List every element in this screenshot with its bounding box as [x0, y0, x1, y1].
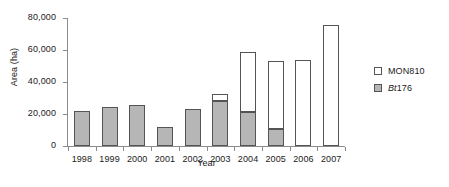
x-tick [207, 147, 208, 151]
x-tick [262, 147, 263, 151]
x-tick [290, 147, 291, 151]
x-tick [68, 147, 69, 151]
bar-segment-bt176 [212, 101, 228, 146]
x-tick [234, 147, 235, 151]
x-tick [123, 147, 124, 151]
y-tick: 0 [63, 146, 67, 147]
bar-group [74, 18, 90, 146]
bar-group [212, 18, 228, 146]
y-tick-label: 60,000 [28, 44, 56, 54]
y-tick: 20,000 [63, 114, 67, 115]
y-tick: 60,000 [63, 50, 67, 51]
y-axis-label: Area (ha) [9, 22, 19, 112]
bar-segment-bt176 [129, 105, 145, 146]
bar-segment-mon810 [212, 94, 228, 101]
bar-segment-bt176 [185, 109, 201, 146]
x-tick [96, 147, 97, 151]
legend-label-mon810: MON810 [388, 66, 425, 76]
bar-segment-bt176 [102, 107, 118, 146]
y-tick: 80,000 [63, 18, 67, 19]
bar-segment-bt176 [74, 111, 90, 146]
legend-swatch-mon810 [374, 67, 382, 75]
bar-group [102, 18, 118, 146]
bar-group [157, 18, 173, 146]
legend-item-mon810: MON810 [374, 62, 425, 79]
y-axis-line [67, 18, 68, 147]
bar-segment-bt176 [268, 129, 284, 146]
bar-segment-bt176 [157, 127, 173, 146]
x-tick [317, 147, 318, 151]
bar-segment-mon810 [240, 52, 256, 112]
legend-label-bt176-plain: 176 [397, 83, 412, 93]
x-axis-label: Year [68, 158, 345, 168]
legend-item-bt176: Bt176 [374, 79, 425, 96]
chart-container: Area (ha) 020,00040,00060,00080,000 1998… [0, 0, 449, 187]
bar-group [295, 18, 311, 146]
bar-group [240, 18, 256, 146]
plot-area: 020,00040,00060,00080,000 19981999200020… [68, 18, 345, 146]
chart-legend: MON810 Bt176 [374, 62, 425, 96]
bar-segment-mon810 [323, 25, 339, 146]
y-tick: 40,000 [63, 82, 67, 83]
bar-segment-mon810 [268, 61, 284, 129]
x-axis-line [67, 146, 345, 147]
x-tick [179, 147, 180, 151]
legend-label-bt176: Bt176 [388, 83, 412, 93]
x-tick [151, 147, 152, 151]
bar-group [323, 18, 339, 146]
x-tick [345, 147, 346, 151]
legend-swatch-bt176 [374, 84, 382, 92]
legend-label-bt176-italic: Bt [388, 83, 397, 93]
bar-group [268, 18, 284, 146]
y-tick-label: 80,000 [28, 12, 56, 22]
bar-segment-mon810 [295, 60, 311, 146]
bar-group [185, 18, 201, 146]
bar-group [129, 18, 145, 146]
y-tick-label: 0 [51, 140, 56, 150]
y-tick-label: 20,000 [28, 108, 56, 118]
bar-segment-bt176 [240, 112, 256, 146]
y-tick-label: 40,000 [28, 76, 56, 86]
